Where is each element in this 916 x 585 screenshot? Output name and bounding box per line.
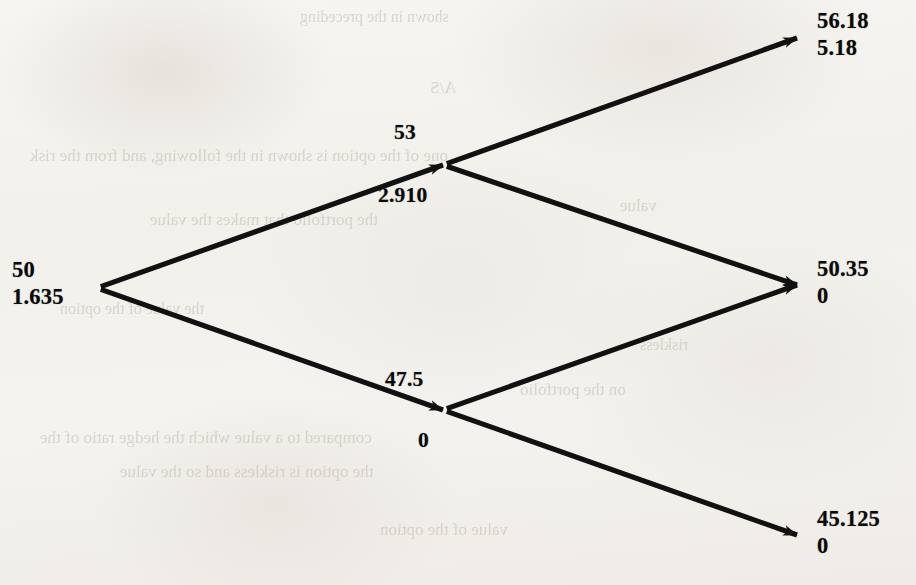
node-root-asset-price: 50 [12, 256, 64, 283]
node-down-asset-price: 47.5 [385, 366, 423, 392]
node-up-down-asset-price: 50.35 [817, 255, 869, 282]
tree-edge-up-upup [447, 38, 797, 164]
tree-edge-down-updown [447, 285, 797, 409]
node-root: 50 1.635 [12, 256, 64, 311]
node-root-option-value: 1.635 [12, 283, 64, 310]
node-down-down: 45.125 0 [817, 505, 880, 560]
node-up-asset-price: 53 [394, 119, 416, 145]
node-up-up-option-value: 5.18 [817, 34, 869, 61]
node-up-up-asset-price: 56.18 [817, 7, 869, 34]
node-up-up: 56.18 5.18 [817, 7, 869, 62]
binomial-tree-figure: shown in the precedingA/Sone of the opti… [0, 0, 916, 585]
tree-edges [0, 0, 916, 585]
node-down-option-value: 0 [418, 427, 429, 453]
node-down-down-option-value: 0 [817, 532, 880, 559]
node-down-down-asset-price: 45.125 [817, 505, 880, 532]
node-up-option-value: 2.910 [378, 182, 427, 208]
tree-edge-down-downdown [447, 411, 797, 535]
tree-edge-up-updown [447, 166, 797, 285]
node-up-down: 50.35 0 [817, 255, 869, 310]
node-up-down-option-value: 0 [817, 282, 869, 309]
